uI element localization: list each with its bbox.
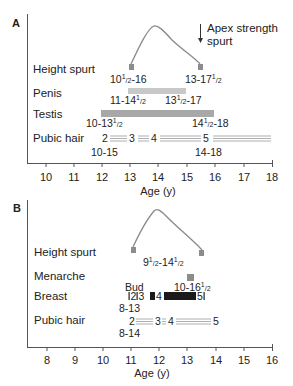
stage-label: 4 — [168, 315, 174, 327]
height-spurt-start-marker — [129, 64, 134, 70]
stage-label: 3 — [155, 315, 161, 327]
tick-label: 15 — [238, 354, 250, 366]
stage-label: 5 — [203, 132, 209, 144]
tick-label: 12 — [153, 354, 165, 366]
tick-label: 8 — [44, 354, 50, 366]
stage-label: 4 — [151, 132, 157, 144]
apex-strength-annotation: Apex strength spurt — [198, 22, 278, 47]
x-axis-label: Age (y) — [140, 185, 175, 197]
tick-label: 16 — [209, 171, 221, 183]
panel-a-letter: A — [12, 17, 20, 29]
x-axis-label: Age (y) — [134, 367, 169, 379]
testis-onset-range: 10-131/2 — [86, 117, 123, 129]
tick-label: 13 — [124, 171, 136, 183]
menarche-marker — [187, 274, 194, 281]
panel-b-letter: B — [13, 202, 21, 214]
stage-label: 5 — [197, 290, 203, 302]
testis-bar — [101, 110, 214, 117]
row-label-pubic-hair: Pubic hair — [34, 314, 85, 326]
annotation-text: Apex strength — [207, 22, 278, 34]
annotation-text: spurt — [207, 35, 233, 47]
row-label-pubic-hair: Pubic hair — [33, 132, 84, 144]
height-spurt-end-marker — [199, 250, 204, 256]
pubic-end-range: 14-18 — [195, 146, 222, 158]
pubic-hair-stages-a: 2 3 4 5 — [102, 132, 271, 144]
puberty-timeline-figure: A 10 11 12 13 14 15 16 17 18 Age (y) Ape… — [0, 0, 293, 386]
row-label-penis: Penis — [33, 87, 62, 99]
stage-label: 4 — [156, 290, 162, 302]
testis-end-range: 141/2-18 — [192, 117, 229, 129]
stage-label: 3 — [129, 132, 135, 144]
pubic-hair-stages-b: 2 3 4 5 — [129, 315, 219, 327]
menarche-range: 10-161/2 — [174, 281, 211, 293]
stage-label: 2 — [131, 290, 137, 302]
penis-end-range: 131/2-17 — [165, 94, 202, 106]
tick-label: 12 — [96, 171, 108, 183]
row-label-height-spurt: Height spurt — [34, 246, 97, 258]
pubic-onset-range: 10-15 — [91, 146, 118, 158]
tick-label: 11 — [68, 171, 79, 183]
row-label-height-spurt: Height spurt — [33, 63, 96, 75]
height-spurt-curve — [131, 26, 200, 64]
row-label-menarche: Menarche — [34, 270, 85, 282]
x-tick-labels: 8 9 10 11 12 13 14 15 16 — [44, 354, 278, 366]
breast-range: 8-13 — [119, 302, 140, 314]
panel-a: A 10 11 12 13 14 15 16 17 18 Age (y) Ape… — [12, 14, 278, 197]
penis-onset-range: 11-141/2 — [110, 94, 146, 106]
x-tick-labels: 10 11 12 13 14 15 16 17 18 — [40, 171, 278, 183]
panel-b: B 8 9 10 11 12 13 14 15 16 Age (y) Heigh… — [13, 200, 278, 379]
row-label-breast: Breast — [34, 290, 68, 302]
pubic-range: 8-14 — [119, 327, 140, 339]
height-range: 91/2-141/2 — [143, 256, 184, 268]
height-spurt-curve — [133, 210, 202, 250]
arrow-down-icon — [198, 38, 203, 43]
height-spurt-start-marker — [131, 247, 136, 253]
tick-label: 15 — [181, 171, 193, 183]
tick-label: 10 — [97, 354, 109, 366]
tick-label: 11 — [125, 354, 136, 366]
tick-label: 10 — [40, 171, 52, 183]
stage-label: 3 — [139, 290, 145, 302]
tick-label: 9 — [72, 354, 78, 366]
stage-label: 5 — [213, 315, 219, 327]
row-label-testis: Testis — [33, 108, 63, 120]
stage-label: 2 — [102, 132, 108, 144]
breast-bar — [164, 292, 196, 300]
tick-label: 14 — [210, 354, 222, 366]
tick-label: 16 — [266, 354, 278, 366]
breast-bar — [150, 292, 155, 300]
height-onset-range: 101/2-16 — [110, 73, 147, 85]
height-spurt-end-marker — [198, 64, 203, 70]
tick-label: 14 — [152, 171, 164, 183]
height-end-range: 13-171/2 — [185, 73, 222, 85]
tick-label: 13 — [181, 354, 193, 366]
tick-label: 18 — [266, 171, 278, 183]
tick-label: 17 — [238, 171, 250, 183]
stage-label: 2 — [129, 315, 135, 327]
